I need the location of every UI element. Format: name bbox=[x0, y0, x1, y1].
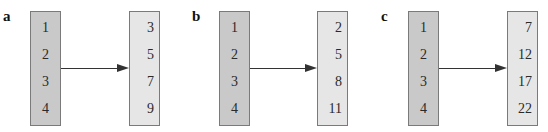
arrowhead-icon bbox=[117, 64, 129, 72]
range-value: 9 bbox=[130, 99, 159, 119]
panel-label: c bbox=[381, 8, 388, 25]
domain-box: 1 2 3 4 bbox=[219, 11, 250, 126]
domain-value: 2 bbox=[409, 45, 438, 65]
domain-value: 2 bbox=[31, 45, 60, 65]
mapping-arrow bbox=[439, 68, 497, 69]
domain-value: 3 bbox=[31, 72, 60, 92]
domain-value: 2 bbox=[220, 45, 249, 65]
range-value: 7 bbox=[130, 72, 159, 92]
range-value: 8 bbox=[318, 72, 347, 92]
range-value: 2 bbox=[318, 18, 347, 38]
domain-value: 4 bbox=[220, 99, 249, 119]
panel-label: a bbox=[3, 8, 11, 25]
range-box: 7 12 17 22 bbox=[507, 11, 538, 126]
panel-label: b bbox=[192, 8, 200, 25]
domain-box: 1 2 3 4 bbox=[30, 11, 61, 126]
range-value: 7 bbox=[508, 18, 537, 38]
domain-value: 3 bbox=[220, 72, 249, 92]
mapping-arrow bbox=[250, 68, 307, 69]
domain-box: 1 2 3 4 bbox=[408, 11, 439, 126]
arrowhead-icon bbox=[495, 64, 507, 72]
panel-a: a 1 2 3 4 3 5 7 9 bbox=[0, 0, 180, 132]
range-box: 3 5 7 9 bbox=[129, 11, 160, 126]
range-value: 17 bbox=[508, 72, 537, 92]
range-value: 12 bbox=[508, 45, 537, 65]
domain-value: 4 bbox=[409, 99, 438, 119]
domain-value: 1 bbox=[31, 18, 60, 38]
range-value: 11 bbox=[318, 99, 347, 119]
domain-value: 1 bbox=[409, 18, 438, 38]
panel-b: b 1 2 3 4 2 5 8 11 bbox=[189, 0, 369, 132]
range-value: 3 bbox=[130, 18, 159, 38]
panel-c: c 1 2 3 4 7 12 17 22 bbox=[378, 0, 548, 132]
domain-value: 3 bbox=[409, 72, 438, 92]
range-value: 5 bbox=[318, 45, 347, 65]
range-value: 22 bbox=[508, 99, 537, 119]
range-value: 5 bbox=[130, 45, 159, 65]
arrowhead-icon bbox=[305, 64, 317, 72]
mapping-arrow bbox=[61, 68, 119, 69]
range-box: 2 5 8 11 bbox=[317, 11, 348, 126]
domain-value: 1 bbox=[220, 18, 249, 38]
domain-value: 4 bbox=[31, 99, 60, 119]
